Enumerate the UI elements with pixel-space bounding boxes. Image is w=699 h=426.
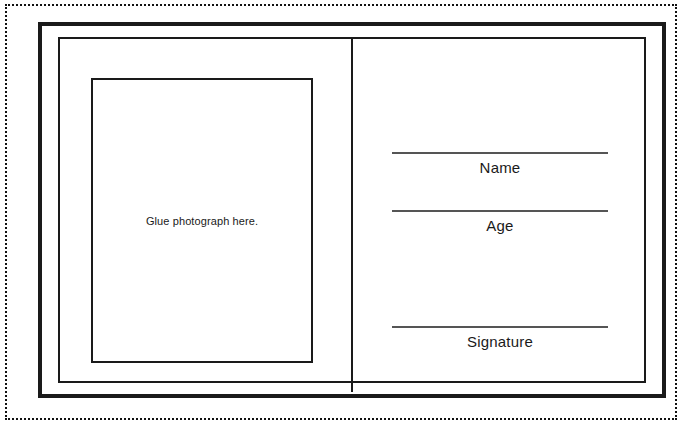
field-age-writing-line[interactable] xyxy=(392,210,608,212)
field-age[interactable]: Age xyxy=(392,210,608,234)
field-name[interactable]: Name xyxy=(392,152,608,176)
photo-paste-area[interactable]: Glue photograph here. xyxy=(91,78,313,363)
photo-paste-instruction: Glue photograph here. xyxy=(146,215,258,227)
left-page: Glue photograph here. xyxy=(60,39,352,381)
field-signature-writing-line[interactable] xyxy=(392,326,608,328)
field-age-label: Age xyxy=(392,217,608,234)
field-list: Name Age Signature xyxy=(352,39,644,381)
booklet-pages: Glue photograph here. Name Age xyxy=(60,39,644,381)
booklet-inner-border: Glue photograph here. Name Age xyxy=(58,37,646,383)
right-page: Name Age Signature xyxy=(352,39,644,381)
field-signature[interactable]: Signature xyxy=(392,326,608,350)
field-name-writing-line[interactable] xyxy=(392,152,608,154)
document-canvas: Glue photograph here. Name Age xyxy=(0,0,699,426)
field-name-label: Name xyxy=(392,159,608,176)
booklet-outer-border: Glue photograph here. Name Age xyxy=(38,22,666,398)
field-signature-label: Signature xyxy=(392,333,608,350)
